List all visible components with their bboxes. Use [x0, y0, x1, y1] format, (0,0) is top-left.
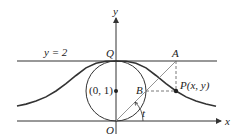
witch-of-agnesi-diagram: y x y = 2 Q A B P(x, y) (0, 1) O t: [0, 0, 236, 139]
label-B: B: [136, 84, 143, 96]
point-P: [174, 89, 178, 93]
label-O: O: [106, 124, 114, 136]
label-Q: Q: [106, 47, 114, 59]
label-P: P(x, y): [179, 79, 210, 92]
label-A: A: [171, 47, 179, 59]
center-point: [114, 89, 118, 93]
y-axis-label: y: [112, 5, 118, 17]
x-axis-label: x: [224, 115, 230, 127]
label-t: t: [142, 107, 146, 119]
label-center: (0, 1): [89, 84, 113, 97]
line-label: y = 2: [43, 46, 68, 58]
